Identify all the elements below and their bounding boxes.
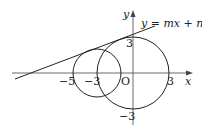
tick-label-x-pos3: 3 bbox=[167, 75, 174, 88]
coordinate-diagram: y = mx + n y x O −5 −3 3 3 −3 bbox=[0, 0, 202, 133]
tick-label-x-neg5: −5 bbox=[59, 75, 75, 88]
y-axis-arrow-icon bbox=[131, 10, 136, 17]
tick-label-y-neg3: −3 bbox=[119, 110, 135, 123]
tangent-line bbox=[15, 26, 155, 79]
tick-label-y-pos3: 3 bbox=[126, 37, 133, 50]
x-axis-label: x bbox=[185, 75, 192, 88]
origin-label: O bbox=[121, 75, 130, 88]
tick-label-x-neg3: −3 bbox=[84, 75, 100, 88]
line-equation-label: y = mx + n bbox=[140, 17, 202, 30]
y-axis-label: y bbox=[122, 8, 130, 21]
